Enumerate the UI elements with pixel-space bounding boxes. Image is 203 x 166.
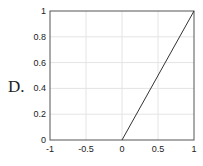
svg-text:0.8: 0.8 [33, 32, 46, 42]
svg-text:0: 0 [119, 144, 124, 154]
svg-text:0.6: 0.6 [33, 58, 46, 68]
svg-text:1: 1 [191, 144, 196, 154]
svg-text:0.4: 0.4 [33, 83, 46, 93]
svg-text:1: 1 [41, 6, 46, 16]
svg-text:-0.5: -0.5 [78, 144, 94, 154]
svg-text:0.2: 0.2 [33, 109, 46, 119]
svg-text:-1: -1 [46, 144, 54, 154]
y-axis-ticks: 0 0.2 0.4 0.6 0.8 1 [33, 6, 46, 145]
grid [50, 11, 194, 140]
x-axis-ticks: -1 -0.5 0 0.5 1 [46, 144, 197, 154]
line-chart: 0 0.2 0.4 0.6 0.8 1 -1 -0.5 0 0.5 1 [0, 0, 203, 166]
svg-text:0.5: 0.5 [152, 144, 165, 154]
